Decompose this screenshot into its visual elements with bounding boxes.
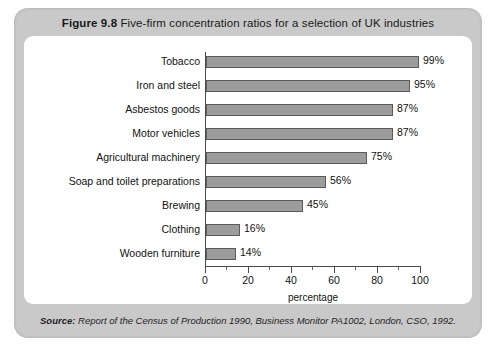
bar-category-label: Brewing bbox=[162, 199, 200, 211]
bar-value-label: 87% bbox=[397, 102, 418, 114]
source-text: Report of the Census of Production 1990,… bbox=[78, 315, 456, 326]
bar-category-label: Tobacco bbox=[161, 55, 200, 67]
x-tick-minor bbox=[269, 267, 270, 270]
bar-value-label: 87% bbox=[397, 126, 418, 138]
bar-category-label: Wooden furniture bbox=[120, 247, 200, 259]
x-tick-minor bbox=[312, 267, 313, 270]
source-label: Source: bbox=[40, 315, 75, 326]
bar-category-label: Asbestos goods bbox=[125, 103, 200, 115]
bar-value-label: 56% bbox=[330, 174, 351, 186]
bar-rect bbox=[206, 248, 236, 260]
bar-category-label: Soap and toilet preparations bbox=[69, 175, 200, 187]
bar-value-label: 45% bbox=[307, 198, 328, 210]
x-tick-minor bbox=[398, 267, 399, 270]
x-axis-line bbox=[205, 266, 421, 267]
bar-value-label: 14% bbox=[240, 246, 261, 258]
bar-rect bbox=[206, 56, 419, 68]
x-tick-label: 0 bbox=[185, 274, 225, 286]
figure-frame: Figure 9.8 Five-firm concentration ratio… bbox=[14, 8, 482, 338]
x-tick-label: 100 bbox=[400, 274, 440, 286]
bar-rect bbox=[206, 200, 303, 212]
x-axis-title: percentage bbox=[205, 292, 421, 303]
bar-category-label: Agricultural machinery bbox=[96, 151, 200, 163]
x-tick-minor bbox=[226, 267, 227, 270]
figure-source: Source: Report of the Census of Producti… bbox=[14, 304, 482, 338]
x-tick-major bbox=[377, 267, 378, 273]
bar-value-label: 75% bbox=[371, 150, 392, 162]
bar-row: Clothing 16% bbox=[24, 220, 472, 242]
bar-rect bbox=[206, 176, 326, 188]
x-tick-major bbox=[205, 267, 206, 273]
x-tick-label: 80 bbox=[357, 274, 397, 286]
bar-rect bbox=[206, 80, 410, 92]
bar-value-label: 99% bbox=[423, 54, 444, 66]
x-tick-major bbox=[334, 267, 335, 273]
x-tick-minor bbox=[355, 267, 356, 270]
bar-rect bbox=[206, 128, 393, 140]
bar-rect bbox=[206, 152, 367, 164]
x-tick-label: 60 bbox=[314, 274, 354, 286]
x-tick-major bbox=[420, 267, 421, 273]
bar-row: Tobacco 99% bbox=[24, 52, 472, 74]
x-tick-label: 40 bbox=[271, 274, 311, 286]
bar-chart: Tobacco 99% Iron and steel 95% Asbestos … bbox=[24, 36, 472, 304]
bar-row: Motor vehicles 87% bbox=[24, 124, 472, 146]
bar-row: Soap and toilet preparations 56% bbox=[24, 172, 472, 194]
bar-rect bbox=[206, 104, 393, 116]
figure-title: Figure 9.8 Five-firm concentration ratio… bbox=[14, 8, 482, 38]
x-tick-major bbox=[291, 267, 292, 273]
bar-row: Wooden furniture 14% bbox=[24, 244, 472, 266]
figure-title-text: Five-firm concentration ratios for a sel… bbox=[120, 17, 434, 29]
x-tick-label: 20 bbox=[228, 274, 268, 286]
bar-category-label: Motor vehicles bbox=[132, 127, 200, 139]
bar-value-label: 16% bbox=[244, 222, 265, 234]
bar-value-label: 95% bbox=[414, 78, 435, 90]
bar-row: Iron and steel 95% bbox=[24, 76, 472, 98]
bar-row: Agricultural machinery 75% bbox=[24, 148, 472, 170]
bar-category-label: Clothing bbox=[161, 223, 200, 235]
bar-row: Asbestos goods 87% bbox=[24, 100, 472, 122]
x-tick-major bbox=[248, 267, 249, 273]
figure-number: Figure 9.8 bbox=[62, 17, 117, 29]
bar-row: Brewing 45% bbox=[24, 196, 472, 218]
bar-rect bbox=[206, 224, 240, 236]
chart-panel: Tobacco 99% Iron and steel 95% Asbestos … bbox=[24, 36, 472, 304]
bar-category-label: Iron and steel bbox=[136, 79, 200, 91]
